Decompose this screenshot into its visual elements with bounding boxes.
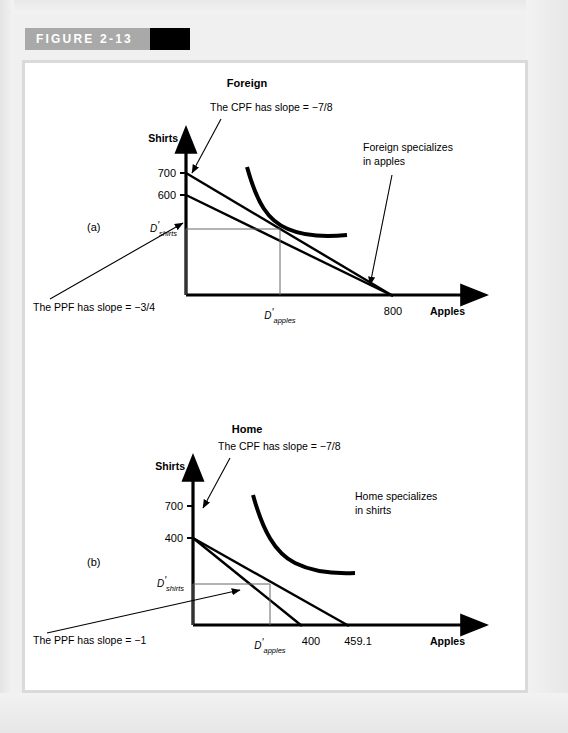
panel-a-cpf-line <box>186 173 393 296</box>
panel-a-y-axis-label: Shirts <box>148 132 178 144</box>
figure-illustration: Foreign (a) Shirts Apples 700 600 D's <box>25 63 525 690</box>
panel-a-x-axis-label: Apples <box>430 305 465 317</box>
panel-b-indifference-curve <box>253 495 355 573</box>
page-edge-top <box>0 0 568 14</box>
panel-a-ppf-arrow <box>50 223 183 299</box>
panel-b-y-axis-label: Shirts <box>155 460 185 472</box>
panel-b-cpf-arrow <box>203 458 230 508</box>
panel-a-indifference-curve <box>247 167 347 236</box>
panel-b-dapples-label: D'apples <box>254 637 286 655</box>
panel-b-ppf-note: The PPF has slope = −1 <box>33 634 146 646</box>
page-edge-bottom <box>0 693 568 733</box>
panel-b-xtick-400: 400 <box>302 635 320 647</box>
panel-b-cpf-note: The CPF has slope = −7/8 <box>218 440 341 452</box>
figure-label: FIGURE 2-13 <box>36 32 133 46</box>
panel-b-letter: (b) <box>87 556 100 568</box>
panel-a-cpf-note: The CPF has slope = −7/8 <box>210 101 333 113</box>
panel-b-ytick-400: 400 <box>165 532 183 544</box>
page-edge-right <box>526 0 568 733</box>
panel-a-ytick-600: 600 <box>158 189 176 201</box>
panel-b-ytick-700: 700 <box>165 500 183 512</box>
panel-a-letter: (a) <box>87 221 100 233</box>
panel-b-dshirts-label: D'shirts <box>157 575 184 593</box>
panel-a-specialize-note-line2: in apples <box>363 155 405 167</box>
panel-b-specialize-note-line2: in shirts <box>355 504 391 516</box>
panel-a-ppf-line <box>186 195 393 296</box>
panel-a-xtick-800: 800 <box>384 305 402 317</box>
panel-a-ytick-700: 700 <box>158 167 176 179</box>
panel-b-xtick-4591: 459.1 <box>344 635 372 647</box>
page-background: FIGURE 2-13 Foreign (a) Shirts Apples <box>0 0 568 733</box>
panel-b-ppf-line <box>193 538 302 626</box>
panel-a-consumption-guides <box>186 229 280 295</box>
panel-b-title: Home <box>232 423 263 435</box>
panel-b-x-axis-label: Apples <box>430 635 465 647</box>
panel-b-cpf-line <box>193 538 349 626</box>
figure-header-black-bar <box>150 28 190 50</box>
panel-a-specialize-arrow <box>370 175 392 285</box>
figure-card: Foreign (a) Shirts Apples 700 600 D's <box>25 63 525 690</box>
panel-a-cpf-arrow <box>192 119 221 173</box>
panel-a-title: Foreign <box>227 77 268 89</box>
page-edge-left <box>0 0 14 733</box>
panel-b-specialize-note-line1: Home specializes <box>355 490 437 502</box>
panel-a-specialize-note-line1: Foreign specializes <box>363 141 453 153</box>
panel-a-ppf-note: The PPF has slope = −3/4 <box>33 301 155 313</box>
figure-header: FIGURE 2-13 <box>25 28 325 50</box>
panel-a-dapples-label: D'apples <box>264 307 296 325</box>
